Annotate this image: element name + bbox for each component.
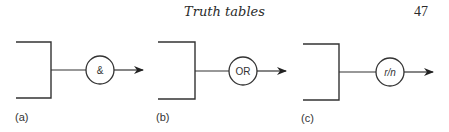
gate-diagram-a: & bbox=[16, 42, 143, 98]
gate-diagram-b: OR bbox=[158, 42, 286, 99]
panel-label-c: (c) bbox=[301, 112, 314, 124]
panel-label-a: (a) bbox=[15, 111, 28, 123]
gate-diagram-c: r/n bbox=[303, 44, 433, 100]
input-bracket bbox=[303, 44, 339, 100]
input-bracket bbox=[16, 42, 51, 98]
logic-gate-diagrams: & OR r/n bbox=[0, 0, 449, 132]
gate-symbol: OR bbox=[236, 66, 251, 77]
panel-label-b: (b) bbox=[156, 111, 169, 123]
input-bracket bbox=[158, 42, 195, 99]
gate-symbol: r/n bbox=[384, 67, 396, 78]
gate-symbol: & bbox=[97, 65, 104, 76]
